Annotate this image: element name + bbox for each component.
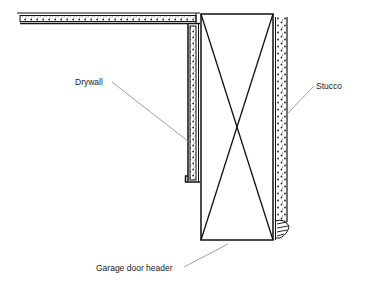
ceiling-drywall — [17, 13, 200, 24]
garage-door-header — [201, 14, 273, 240]
header-leader — [184, 244, 228, 267]
garage-header-section-diagram: Drywall Stucco Garage door header — [0, 0, 366, 288]
wall-drywall — [186, 24, 201, 182]
header-label: Garage door header — [96, 263, 173, 273]
drywall-label: Drywall — [75, 77, 103, 87]
stucco-label: Stucco — [316, 81, 342, 91]
drywall-leader — [112, 82, 189, 142]
stucco-leader — [287, 86, 314, 114]
stucco-layer — [276, 17, 290, 240]
